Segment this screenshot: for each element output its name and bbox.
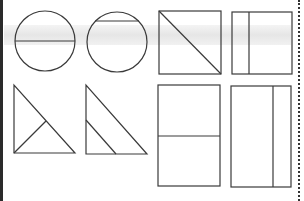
triangle-median-shape (14, 85, 75, 153)
square-diagonal-shape (159, 11, 221, 74)
circle-diameter-shape (15, 11, 75, 71)
rectangle-horizontal-half-shape (158, 85, 220, 186)
shapes-canvas (0, 0, 304, 201)
circle-chord-shape (87, 12, 147, 72)
rectangle-vertical-right-shape (231, 86, 291, 187)
triangle-parallel-shape (86, 85, 147, 154)
worksheet-page (0, 0, 304, 201)
rectangle-vertical-left-shape (232, 12, 292, 74)
